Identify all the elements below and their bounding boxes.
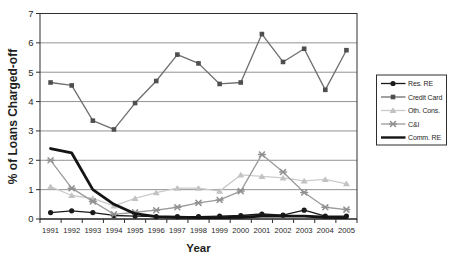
legend-label-c-i: C&I	[408, 121, 419, 128]
y-tick-label-4: 4	[28, 96, 33, 107]
x-tick-label-1991: 1991	[42, 226, 59, 235]
marker-credit-card-1991	[48, 80, 53, 85]
x-tick-label-1996: 1996	[148, 226, 165, 235]
marker-credit-card-1994	[112, 127, 117, 132]
marker-credit-card-1995	[133, 101, 138, 106]
legend-label-comm-re: Comm. RE	[408, 134, 442, 141]
marker-c-i-1996	[153, 208, 160, 213]
marker-credit-card-1993	[91, 118, 96, 123]
data-series	[47, 32, 350, 220]
legend-label-credit-card: Credit Card	[408, 94, 442, 101]
marker-res-re-1993	[90, 210, 95, 215]
loan-chargeoff-line-chart: 0123456719911992199319941995199619971998…	[0, 0, 454, 263]
marker-c-i-2001	[259, 152, 266, 157]
x-tick-label-2001: 2001	[253, 226, 270, 235]
y-tick-label-7: 7	[28, 8, 33, 19]
y-tick-label-0: 0	[28, 213, 33, 224]
marker-c-i-1999	[216, 197, 223, 202]
marker-c-i-2003	[301, 190, 308, 195]
marker-res-re-1992	[69, 208, 74, 213]
marker-c-i-1991	[47, 158, 54, 163]
x-tick-label-1993: 1993	[84, 226, 101, 235]
marker-res-re-2003	[302, 208, 307, 213]
series-credit-card-markers	[48, 32, 348, 132]
marker-credit-card-2000	[238, 80, 243, 85]
marker-c-i-1998	[195, 200, 202, 205]
legend-label-res-re: Res. RE	[408, 80, 433, 87]
y-tick-label-5: 5	[28, 67, 33, 78]
marker-c-i-1997	[174, 205, 181, 210]
y-tick-label-6: 6	[28, 37, 33, 48]
x-tick-label-1994: 1994	[106, 226, 123, 235]
marker-c-i-2002	[280, 170, 287, 175]
x-tick-label-2005: 2005	[338, 226, 355, 235]
marker-oth-cons-1991	[47, 184, 54, 190]
x-tick-label-1992: 1992	[63, 226, 80, 235]
chart-canvas: 0123456719911992199319941995199619971998…	[0, 0, 454, 263]
x-tick-label-2002: 2002	[275, 226, 292, 235]
marker-credit-card-2005	[344, 48, 349, 53]
marker-credit-card-1997	[175, 52, 180, 57]
y-tick-label-1: 1	[28, 184, 33, 195]
x-tick-label-2003: 2003	[296, 226, 313, 235]
marker-credit-card-2004	[323, 88, 328, 93]
y-tick-label-3: 3	[28, 125, 33, 136]
marker-res-re-1991	[48, 210, 53, 215]
x-tick-label-1995: 1995	[127, 226, 144, 235]
marker-credit-card-1998	[196, 61, 201, 66]
legend: Res. RECredit CardOth. Cons.C&IComm. RE	[377, 75, 447, 145]
x-tick-label-1999: 1999	[211, 226, 228, 235]
x-tick-label-1997: 1997	[169, 226, 186, 235]
series-c-i	[47, 152, 350, 217]
y-axis-title: % of Loans Charged-off	[6, 48, 20, 184]
marker-c-i-2004	[322, 205, 329, 210]
series-c-i-markers	[47, 152, 350, 217]
legend-marker-credit-card	[391, 95, 396, 100]
axis-ticks-and-labels: 0123456719911992199319941995199619971998…	[28, 8, 357, 235]
marker-credit-card-1996	[154, 79, 159, 84]
y-tick-label-2: 2	[28, 155, 33, 166]
marker-credit-card-2001	[260, 32, 265, 37]
legend-marker-res-re	[390, 81, 395, 86]
x-axis-title: Year	[186, 242, 211, 254]
x-tick-label-1998: 1998	[190, 226, 207, 235]
series-c-i-line	[51, 154, 347, 214]
x-tick-label-2000: 2000	[232, 226, 249, 235]
marker-credit-card-1999	[217, 82, 222, 87]
x-tick-label-2004: 2004	[317, 226, 334, 235]
marker-credit-card-2003	[302, 46, 307, 51]
marker-credit-card-2002	[281, 60, 286, 65]
legend-label-oth-cons: Oth. Cons.	[408, 107, 440, 114]
marker-c-i-2005	[343, 207, 350, 212]
series-credit-card	[48, 32, 348, 132]
marker-credit-card-1992	[69, 83, 74, 88]
